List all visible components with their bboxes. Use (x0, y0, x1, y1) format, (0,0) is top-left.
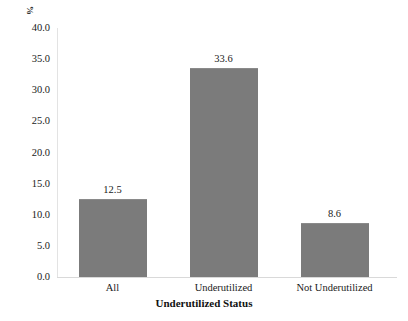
y-axis-tick: 15.0 (0, 178, 50, 189)
x-axis-line (57, 277, 397, 278)
bar-value-label: 8.6 (295, 208, 375, 219)
x-axis-tick: All (53, 282, 173, 294)
bar (190, 68, 258, 277)
bar-chart: % 40.035.030.025.020.015.010.05.00.0 12.… (0, 0, 408, 321)
y-axis-tick: 35.0 (0, 53, 50, 64)
y-axis-tick: 25.0 (0, 115, 50, 126)
x-axis-title: Underutilized Status (0, 297, 408, 310)
y-axis-unit-label: % (26, 6, 35, 15)
y-axis-tick: 40.0 (0, 22, 50, 33)
x-axis-tick: Not Underutilized (275, 282, 395, 294)
y-axis-tick: 10.0 (0, 209, 50, 220)
bar (79, 199, 147, 277)
y-axis-tick: 0.0 (0, 271, 50, 282)
plot-area (57, 28, 390, 277)
y-axis-tick: 30.0 (0, 84, 50, 95)
bar-value-label: 12.5 (73, 184, 153, 195)
x-axis-tick: Underutilized (164, 282, 284, 294)
y-axis-tick: 5.0 (0, 240, 50, 251)
y-axis-tick: 20.0 (0, 147, 50, 158)
bar-value-label: 33.6 (184, 53, 264, 64)
bar (301, 223, 369, 277)
